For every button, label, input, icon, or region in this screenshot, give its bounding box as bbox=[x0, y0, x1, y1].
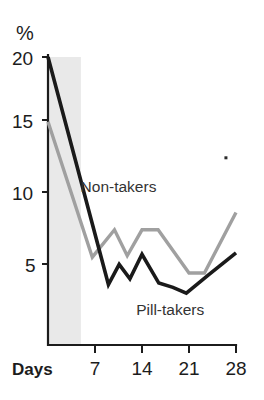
chart-figure: % 20 15 10 5 7 14 21 28 Days Non-takers … bbox=[0, 0, 264, 400]
x-tick-label-28: 28 bbox=[225, 358, 246, 379]
stray-ink-dot bbox=[224, 156, 227, 159]
series-label-non-takers: Non-takers bbox=[81, 178, 157, 195]
x-axis-title: Days bbox=[12, 360, 53, 379]
y-tick-label-10: 10 bbox=[12, 183, 33, 204]
series-label-pill-takers: Pill-takers bbox=[136, 301, 204, 318]
y-tick-label-20: 20 bbox=[12, 48, 33, 69]
y-axis-unit-label: % bbox=[16, 22, 34, 44]
x-tick-label-14: 14 bbox=[131, 358, 153, 379]
y-tick-label-15: 15 bbox=[12, 111, 33, 132]
shaded-band bbox=[48, 57, 81, 345]
line-chart-svg: % 20 15 10 5 7 14 21 28 Days Non-takers … bbox=[0, 0, 264, 400]
x-tick-label-21: 21 bbox=[178, 358, 199, 379]
y-tick-label-5: 5 bbox=[25, 255, 36, 276]
x-tick-label-7: 7 bbox=[90, 358, 101, 379]
